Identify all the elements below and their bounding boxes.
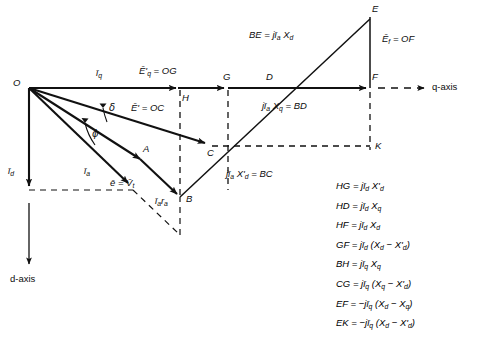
- equation-reactance: X': [369, 180, 380, 191]
- BE-rhs: X: [281, 29, 290, 40]
- equation-tail-close: ): [408, 278, 411, 289]
- e-Vt-subscript: t: [132, 182, 134, 189]
- equation-row: EK = −jīq (Xd − X'd): [336, 313, 415, 333]
- equation-tail-pre: −: [389, 317, 400, 328]
- equation-tail-symbol: X': [400, 317, 408, 328]
- equation-subscript-2: d: [380, 185, 384, 192]
- equation-reactance: (X: [373, 317, 385, 328]
- equation-subscript-2: q: [378, 204, 382, 211]
- equation-subscript-2: d: [376, 224, 380, 231]
- equation-lhs: BH: [336, 258, 349, 269]
- point-label-C: C: [207, 148, 214, 158]
- point-label-O: O: [13, 78, 20, 88]
- label-BD: jīa Xq = BD: [262, 101, 307, 111]
- phasor-diagram: O A B C D E F G H K δ ϕ īq īd īa Ē'q = O…: [0, 0, 480, 358]
- label-BE: BE = jīa Xd: [249, 30, 293, 40]
- d-axis-label: d-axis: [10, 274, 35, 284]
- label-i-a: īa: [84, 166, 90, 176]
- point-label-K: K: [375, 141, 381, 151]
- equation-row: HG = jīd X'd: [336, 176, 415, 196]
- equation-row: GF = jīd (Xd − X'd): [336, 235, 415, 255]
- equation-operator: = jī: [349, 258, 364, 269]
- equation-lhs: EK: [336, 317, 349, 328]
- equation-reactance: (X: [368, 239, 380, 250]
- point-label-D: D: [266, 72, 273, 82]
- i-q-subscript: q: [98, 72, 102, 79]
- angle-label-delta: δ: [109, 103, 115, 114]
- current-components-dashed: [29, 190, 228, 235]
- equation-list: HG = jīd X'd HD = jīd Xq HF = jīd Xd GF …: [336, 176, 415, 333]
- ia-ra-subscript-2: a: [164, 200, 168, 207]
- equation-operator: = jī: [350, 180, 365, 191]
- point-label-B: B: [186, 194, 192, 204]
- i-a-subscript: a: [86, 170, 90, 177]
- Eq-prime-equals: = OG: [151, 65, 177, 76]
- label-E-prime-OC: Ē' = OC: [131, 103, 164, 113]
- point-label-A: A: [143, 144, 149, 154]
- equation-row: CG = jīq (Xq − X'd): [336, 274, 415, 294]
- equation-lhs: GF: [336, 239, 349, 250]
- equation-lhs: CG: [336, 278, 350, 289]
- equation-operator: = jī: [350, 200, 365, 211]
- equation-tail-close: ): [409, 298, 412, 309]
- equation-row: HF = jīd Xd: [336, 215, 415, 235]
- equation-tail-pre: −: [385, 278, 396, 289]
- equation-lhs: HG: [336, 180, 350, 191]
- equation-row: EF = −jīq (Xd − Xq): [336, 294, 415, 314]
- equation-operator: = jī: [350, 278, 365, 289]
- E-prime-symbol: Ē': [131, 102, 139, 113]
- i-d-subscript: d: [10, 170, 14, 177]
- equation-operator: = −jī: [349, 317, 370, 328]
- equation-operator: = jī: [349, 219, 364, 230]
- label-i-d: īd: [8, 166, 14, 176]
- BD-X: X: [270, 100, 279, 111]
- phasor-E-prime-OC: [29, 88, 205, 143]
- label-e-Vt: ē = V̄t: [110, 178, 134, 188]
- equation-reactance: (X: [372, 298, 384, 309]
- equation-tail-symbol: X': [395, 239, 403, 250]
- point-label-H: H: [182, 93, 189, 103]
- equation-lhs: HF: [336, 219, 349, 230]
- equation-reactance: X: [368, 258, 377, 269]
- label-BC: jīa X'd = BC: [226, 169, 273, 179]
- Ef-equals: = OF: [390, 33, 414, 44]
- equation-lhs: HD: [336, 200, 350, 211]
- BC-equals: = BC: [249, 168, 273, 179]
- equation-row: BH = jīq Xq: [336, 254, 415, 274]
- angle-label-phi: ϕ: [92, 129, 99, 140]
- equation-reactance: (X: [369, 278, 381, 289]
- BE-lhs: BE = jī: [249, 29, 277, 40]
- Eq-prime-symbol: Ē': [139, 65, 147, 76]
- label-Ef-OF: Ēf = OF: [382, 34, 414, 44]
- equation-tail-pre: −: [388, 298, 399, 309]
- equation-subscript-2: q: [377, 263, 381, 270]
- BE-subscript-d: d: [290, 34, 294, 41]
- label-i-q: īq: [96, 68, 102, 78]
- BC-X: X': [234, 168, 245, 179]
- BD-equals: = BD: [283, 100, 307, 111]
- equation-lhs: EF: [336, 298, 348, 309]
- equation-tail-pre: −: [384, 239, 395, 250]
- label-ia-ra: īara: [155, 196, 168, 206]
- point-label-E: E: [372, 4, 378, 14]
- point-label-F: F: [372, 72, 378, 82]
- equation-operator: = −jī: [348, 298, 369, 309]
- equation-reactance: X: [369, 200, 378, 211]
- equation-tail-symbol: X': [396, 278, 404, 289]
- equation-tail-close: ): [407, 239, 410, 250]
- equation-row: HD = jīd Xq: [336, 196, 415, 216]
- equation-reactance: X: [367, 219, 376, 230]
- equation-tail-close: ): [412, 317, 415, 328]
- e-Vt-symbol: ē = V̄: [110, 177, 132, 188]
- point-label-G: G: [223, 72, 230, 82]
- label-Eq-prime-OG: Ē'q = OG: [139, 66, 177, 76]
- E-prime-equals: = OC: [139, 102, 164, 113]
- equation-operator: = jī: [349, 239, 364, 250]
- q-axis-label: q-axis: [432, 82, 457, 92]
